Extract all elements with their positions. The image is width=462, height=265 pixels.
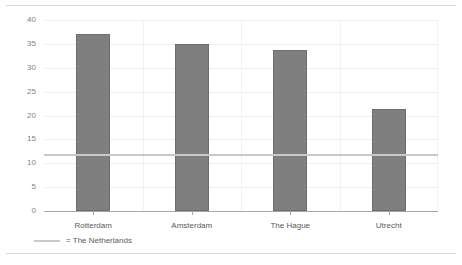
y-axis-tick-label: 35	[6, 40, 36, 48]
category-separator	[340, 20, 341, 211]
y-gridline	[44, 211, 438, 212]
y-axis-tick-label: 0	[6, 207, 36, 215]
bar-utrecht	[372, 109, 406, 211]
bar-rotterdam	[76, 34, 110, 211]
y-axis-tick-label: 15	[6, 135, 36, 143]
x-axis-label-rotterdam: Rotterdam	[43, 221, 143, 230]
netherlands-reference-line	[44, 154, 438, 156]
y-axis-tick-label: 10	[6, 159, 36, 167]
reference-line-marker-icon	[34, 240, 60, 242]
y-axis-tick-label: 5	[6, 183, 36, 191]
legend-label: = The Netherlands	[66, 236, 132, 245]
x-axis-label-amsterdam: Amsterdam	[142, 221, 242, 230]
y-axis-tick-label: 40	[6, 16, 36, 24]
category-separator	[143, 20, 144, 211]
y-axis-tick-label: 25	[6, 88, 36, 96]
bar-chart-figure: 4035302520151050 = The Netherlands Rotte…	[0, 0, 462, 265]
x-axis-tick	[93, 211, 94, 215]
x-axis-tick	[290, 211, 291, 215]
y-axis-tick-label: 20	[6, 112, 36, 120]
bar-amsterdam	[175, 44, 209, 211]
x-axis-tick	[389, 211, 390, 215]
plot-right-edge	[437, 20, 438, 211]
x-axis-label-utrecht: Utrecht	[339, 221, 439, 230]
x-axis-tick	[192, 211, 193, 215]
chart-legend: = The Netherlands	[34, 236, 132, 245]
plot-area	[44, 20, 438, 211]
bar-the-hague	[273, 50, 307, 211]
y-axis-tick-label: 30	[6, 64, 36, 72]
x-axis-label-the-hague: The Hague	[240, 221, 340, 230]
category-separator	[241, 20, 242, 211]
